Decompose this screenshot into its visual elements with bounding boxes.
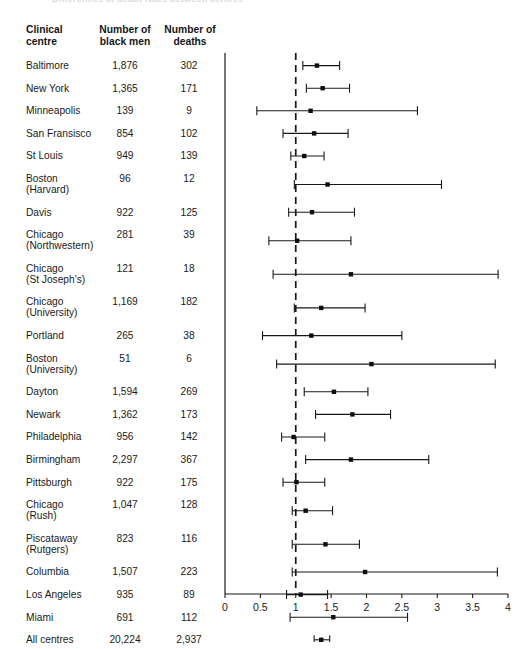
point-estimate-marker <box>369 362 373 366</box>
point-estimate-marker <box>349 272 353 276</box>
x-axis-tick-label: 0.5 <box>253 601 268 613</box>
forest-row <box>257 106 418 115</box>
table-row: Newark1,362173 <box>0 409 222 425</box>
column-header-clinical-centre: Clinical centre <box>26 24 96 47</box>
point-estimate-marker <box>320 86 324 90</box>
table-row: Boston(University)516 <box>0 353 222 369</box>
point-estimate-marker <box>315 63 319 67</box>
point-estimate-marker <box>325 182 329 186</box>
cell-deaths: 6 <box>160 353 218 364</box>
forest-row <box>282 433 325 442</box>
cell-black-men: 121 <box>88 263 162 274</box>
cell-black-men: 20,224 <box>88 634 162 645</box>
cell-deaths: 12 <box>160 173 218 184</box>
cell-black-men: 854 <box>88 128 162 139</box>
cell-black-men: 935 <box>88 589 162 600</box>
forest-row <box>287 590 328 599</box>
table-row: Miami691112 <box>0 612 222 628</box>
cell-black-men: 956 <box>88 431 162 442</box>
table-row: Minneapolis1399 <box>0 105 222 121</box>
cell-deaths: 139 <box>160 150 218 161</box>
point-estimate-marker <box>349 457 353 461</box>
cell-deaths: 182 <box>160 296 218 307</box>
table-row: Columbia1,507223 <box>0 566 222 582</box>
cell-black-men: 1,507 <box>88 566 162 577</box>
forest-row <box>306 84 349 93</box>
point-estimate-marker <box>332 390 336 394</box>
header-line-1: Number of <box>99 24 151 35</box>
cell-clinical-centre-line2: (St Joseph's) <box>26 274 116 286</box>
x-axis-tick-label: 2.5 <box>395 601 410 613</box>
cell-black-men: 51 <box>88 353 162 364</box>
cell-clinical-centre-line2: (Rutgers) <box>26 544 116 556</box>
point-estimate-marker <box>308 109 312 113</box>
point-estimate-marker <box>291 435 295 439</box>
point-estimate-marker <box>331 615 335 619</box>
cell-black-men: 1,047 <box>88 499 162 510</box>
table-row: Dayton1,594269 <box>0 386 222 402</box>
cell-black-men: 1,169 <box>88 296 162 307</box>
point-estimate-marker <box>303 509 307 513</box>
table-row: Chicago(St Joseph's)12118 <box>0 263 222 279</box>
forest-row <box>283 129 348 138</box>
table-row: Philadelphia956142 <box>0 431 222 447</box>
point-estimate-marker <box>302 154 306 158</box>
table-row: San Fransisco854102 <box>0 128 222 144</box>
cell-deaths: 112 <box>160 612 218 623</box>
figure-title-cutoff: Differences in death rates between centr… <box>52 0 243 4</box>
table-row: Davis922125 <box>0 207 222 223</box>
header-line-1: Number of <box>164 24 216 35</box>
cell-black-men: 1,594 <box>88 386 162 397</box>
table-row: Chicago(Northwestern)28139 <box>0 229 222 245</box>
point-estimate-marker <box>299 592 303 596</box>
forest-row <box>269 236 351 245</box>
table-row: Chicago(Rush)1,047128 <box>0 499 222 515</box>
cell-deaths: 367 <box>160 454 218 465</box>
point-estimate-marker <box>294 480 298 484</box>
cell-black-men: 281 <box>88 229 162 240</box>
cell-black-men: 1,876 <box>88 60 162 71</box>
cell-deaths: 302 <box>160 60 218 71</box>
cell-black-men: 1,362 <box>88 409 162 420</box>
point-estimate-marker <box>312 131 316 135</box>
cell-deaths: 173 <box>160 409 218 420</box>
forest-row <box>290 613 407 622</box>
cell-clinical-centre-line2: (University) <box>26 364 116 376</box>
forest-row <box>262 331 401 340</box>
point-estimate-marker <box>309 333 313 337</box>
cell-clinical-centre-line2: (Rush) <box>26 510 116 522</box>
x-axis-tick-label: 1.5 <box>324 601 339 613</box>
point-estimate-marker <box>310 210 314 214</box>
cell-black-men: 823 <box>88 533 162 544</box>
cell-deaths: 39 <box>160 229 218 240</box>
cell-deaths: 125 <box>160 207 218 218</box>
table-row: Los Angeles93589 <box>0 589 222 605</box>
cell-deaths: 18 <box>160 263 218 274</box>
cell-black-men: 691 <box>88 612 162 623</box>
x-axis-tick-label: 2 <box>364 601 370 613</box>
forest-row <box>292 568 497 577</box>
point-estimate-marker <box>319 306 323 310</box>
cell-black-men: 1,365 <box>88 83 162 94</box>
forest-row <box>277 360 496 369</box>
cell-black-men: 949 <box>88 150 162 161</box>
forest-row <box>294 303 365 312</box>
table-row: All centres20,2242,937 <box>0 634 222 649</box>
cell-clinical-centre-line2: (University) <box>26 307 116 319</box>
point-estimate-marker <box>295 239 299 243</box>
forest-row <box>314 635 330 642</box>
table-row: Birmingham2,297367 <box>0 454 222 470</box>
forest-row <box>303 61 340 70</box>
cell-deaths: 102 <box>160 128 218 139</box>
x-axis-tick-label: 1 <box>293 601 299 613</box>
x-axis-tick-label: 4 <box>505 601 511 613</box>
table-row: Portland26538 <box>0 330 222 346</box>
cell-deaths: 175 <box>160 477 218 488</box>
x-axis-tick-label: 3 <box>434 601 440 613</box>
forest-row <box>304 387 368 396</box>
header-line-2: deaths <box>173 36 206 47</box>
x-axis-tick-label: 0 <box>222 601 228 613</box>
table-row: Piscataway(Rutgers)823116 <box>0 533 222 549</box>
header-line-2: centre <box>26 36 57 47</box>
forest-row <box>316 410 391 419</box>
